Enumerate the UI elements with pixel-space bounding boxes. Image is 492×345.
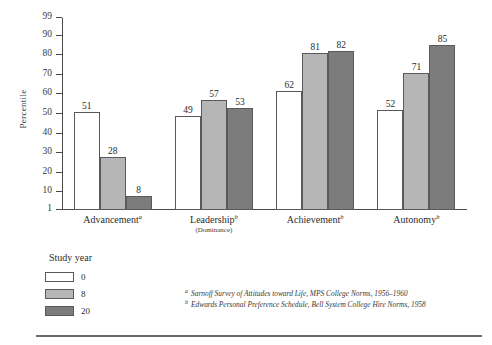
y-tick: 50 [56,113,62,114]
plot-area: 110203040506070809099 512884957536281825… [62,18,467,210]
y-tick: 40 [56,133,62,134]
y-tick: 90 [56,35,62,36]
category-label-autonomy: Autonomyb [366,214,467,225]
y-tick: 30 [56,152,62,153]
footnote-mark: b [185,299,188,305]
bar-value-label: 82 [336,40,346,50]
y-tick: 10 [56,191,62,192]
y-tick-label: 20 [30,166,52,176]
y-tick: 20 [56,172,62,173]
bar: 57 [201,100,227,210]
bar-value-label: 49 [183,105,193,115]
y-tick-label: 30 [30,146,52,156]
bar-value-label: 28 [108,146,118,156]
legend: Study year 0820 [45,252,175,320]
bar-value-label: 53 [235,97,245,107]
category-label-advancement: Advancementa [62,214,163,225]
legend-item: 0 [45,269,175,284]
y-tick-label: 40 [30,127,52,137]
legend-swatch [45,289,74,299]
footnote: bEdwards Personal Preference Schedule, B… [185,299,485,310]
bar-value-label: 62 [284,80,294,90]
bar-value-label: 85 [438,34,448,44]
y-tick-label: 99 [30,11,52,21]
legend-item: 20 [45,303,175,318]
y-tick-label: 60 [30,87,52,97]
bar: 85 [429,45,455,210]
bar: 71 [403,73,429,210]
bar: 52 [377,110,403,210]
y-axis-line [62,18,63,210]
bar-value-label: 81 [310,42,320,52]
category-label-leadership: Leadershipb(Dominance) [163,214,264,234]
footnote-marker: a [139,213,142,220]
y-tick: 99 [56,17,62,18]
bar: 51 [74,112,100,210]
y-tick: 1 [56,209,62,210]
bar: 81 [302,53,328,210]
legend-title: Study year [45,252,175,263]
bar-chart: Percentile 110203040506070809099 5128849… [0,0,492,245]
y-tick: 80 [56,54,62,55]
bar-value-label: 71 [412,62,422,72]
footnote-marker: b [436,213,439,220]
y-tick-label: 1 [30,203,52,213]
bar-value-label: 51 [82,101,92,111]
bar: 49 [175,116,201,210]
footnote-marker: b [234,213,237,220]
y-axis-title: Percentile [18,64,28,154]
legend-label: 8 [81,289,86,299]
footnotes: aSarnoff Survey of Attitudes toward Life… [185,288,485,310]
bottom-divider [36,335,482,337]
y-tick: 60 [56,93,62,94]
bar-value-label: 8 [136,185,141,195]
y-tick: 70 [56,74,62,75]
y-tick-label: 90 [30,29,52,39]
legend-swatch [45,306,74,316]
legend-item: 8 [45,286,175,301]
y-tick-label: 50 [30,107,52,117]
bar: 82 [328,51,354,210]
y-tick-label: 80 [30,48,52,58]
bar: 62 [276,91,302,211]
legend-label: 0 [81,272,86,282]
legend-swatch [45,272,74,282]
y-tick-label: 10 [30,185,52,195]
legend-items: 0820 [45,269,175,318]
bar-value-label: 57 [209,89,219,99]
footnote-marker: b [340,213,343,220]
y-tick-label: 70 [30,68,52,78]
bar-value-label: 52 [386,99,396,109]
footnote-mark: a [185,288,188,294]
legend-label: 20 [81,306,90,316]
category-sublabel: (Dominance) [163,226,264,234]
bar: 28 [100,157,126,210]
category-label-achievement: Achievementb [265,214,366,225]
bar: 53 [227,108,253,210]
bar: 8 [126,196,152,210]
footnote: aSarnoff Survey of Attitudes toward Life… [185,288,485,299]
